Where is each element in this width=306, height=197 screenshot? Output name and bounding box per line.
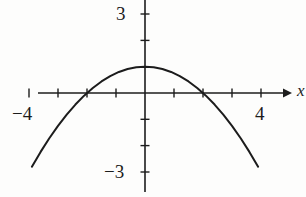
y-tick-label-neg3: −3 (104, 162, 124, 181)
x-axis-variable-label: x (297, 82, 305, 99)
x-tick-label-4: 4 (255, 104, 265, 123)
graph-figure: 3 −3 −4 4 x (0, 0, 306, 197)
x-tick-label-neg4: −4 (12, 104, 32, 123)
y-tick-label-3: 3 (116, 4, 126, 23)
x-axis-arrowhead (283, 89, 292, 98)
axes-group (38, 0, 283, 192)
plot-canvas (0, 0, 306, 197)
